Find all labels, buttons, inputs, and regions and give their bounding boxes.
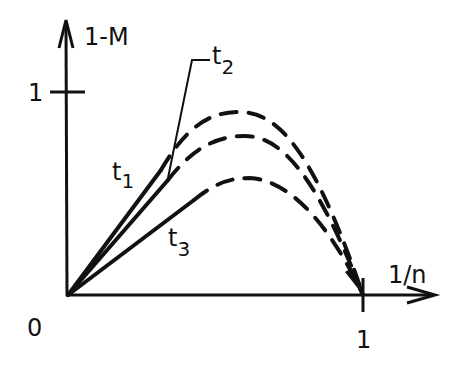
curve-t2-solid [68, 180, 168, 295]
y-axis-label: 1-M [84, 23, 129, 51]
y-tick-label: 1 [28, 79, 43, 107]
x-axis [66, 287, 435, 303]
curve-t2-label: t2 [212, 42, 234, 79]
x-axis-label: 1/n [388, 261, 427, 289]
y-axis [59, 20, 73, 296]
curve-t3-label: t3 [168, 224, 190, 261]
curve-t2-dashed [168, 136, 363, 295]
curve-t1-label: t1 [112, 158, 134, 193]
diagram: 1-M 1 1/n 1 0 t1 t2 t3 [0, 0, 458, 370]
x-tick-label: 1 [356, 326, 371, 354]
origin-label: 0 [27, 314, 42, 342]
